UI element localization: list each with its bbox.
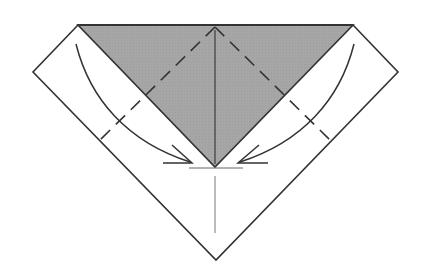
diagram-canvas (0, 0, 425, 275)
origami-diagram: Origami fold step: fold side edges to ce… (0, 0, 425, 275)
